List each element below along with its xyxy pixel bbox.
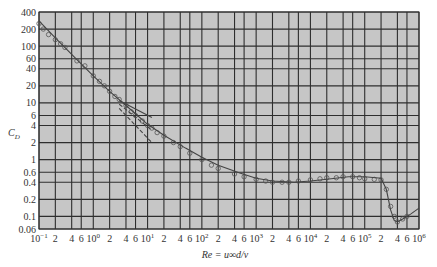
x-tick-label: 6 [404, 233, 409, 244]
x-tick-label: 2 [216, 233, 221, 244]
x-tick-label: 4 [395, 233, 400, 244]
y-tick-label: 200 [21, 24, 36, 35]
x-tick-label: 6 [242, 233, 247, 244]
x-tick-label: 2 [107, 233, 112, 244]
x-tick-label: 2 [324, 233, 329, 244]
x-tick-label: 100 [87, 232, 101, 244]
x-tick-label: 105 [358, 232, 372, 244]
x-tick-label: 4 [123, 233, 128, 244]
x-tick-label: 2 [53, 233, 58, 244]
x-tick-label: 4 [178, 233, 183, 244]
x-tick-label: 4 [69, 233, 74, 244]
x-axis-label: Re = u∞d/ν [201, 249, 249, 260]
y-axis-label: CD [8, 127, 20, 141]
x-tick-label: 2 [270, 233, 275, 244]
y-tick-label: 20 [26, 80, 36, 91]
y-tick-label: 2 [31, 137, 36, 148]
y-tick-label: 0.2 [24, 194, 37, 205]
y-tick-label: 40 [26, 63, 36, 74]
y-tick-label: 4 [31, 120, 36, 131]
x-tick-label: 104 [304, 232, 318, 244]
x-tick-label: 6 [187, 233, 192, 244]
y-axis-label-sub: D [14, 133, 20, 141]
y-tick-label: 10 [26, 97, 36, 108]
x-tick-label: 4 [341, 233, 346, 244]
x-tick-label: 2 [161, 233, 166, 244]
x-tick-label: 101 [141, 232, 155, 244]
x-tick-label: 6 [79, 233, 84, 244]
y-tick-label: 0.4 [24, 177, 37, 188]
x-tick-label: 4 [232, 233, 237, 244]
plot-area [39, 12, 419, 229]
y-tick-label: 1 [31, 154, 36, 165]
x-axis-ticks: 10−1246100246101246102246103246104246105… [30, 232, 426, 244]
x-tick-label: 2 [379, 233, 384, 244]
x-tick-label: 6 [133, 233, 138, 244]
x-tick-label: 10−1 [30, 232, 48, 244]
x-tick-label: 6 [350, 233, 355, 244]
x-tick-label: 103 [249, 232, 263, 244]
drag-coefficient-chart: 4002001006040201064210.60.40.20.10.06 10… [0, 0, 437, 267]
y-tick-label: 100 [21, 41, 36, 52]
x-tick-label: 6 [296, 233, 301, 244]
y-tick-label: 0.1 [24, 211, 37, 222]
x-tick-label: 106 [412, 232, 426, 244]
x-tick-label: 102 [195, 232, 209, 244]
y-tick-label: 400 [21, 7, 36, 18]
y-axis-ticks: 4002001006040201064210.60.40.20.10.06 [19, 7, 37, 235]
x-tick-label: 4 [286, 233, 291, 244]
